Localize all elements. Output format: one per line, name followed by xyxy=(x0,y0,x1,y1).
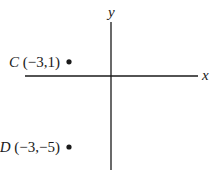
point-c-label: C (−3,1) xyxy=(9,54,60,71)
x-axis-label: x xyxy=(201,67,209,83)
point-c-dot xyxy=(66,59,71,64)
point-name: D xyxy=(0,139,14,155)
point-coordinates: (−3,−5) xyxy=(14,139,60,156)
point-d-dot xyxy=(66,144,71,149)
points-layer: C (−3,1)D (−3,−5) xyxy=(0,54,72,156)
point-d: D (−3,−5) xyxy=(0,139,72,156)
coordinate-plane-svg: x y C (−3,1)D (−3,−5) xyxy=(0,0,217,178)
y-axis-label: y xyxy=(106,4,115,20)
coordinate-plane: x y C (−3,1)D (−3,−5) xyxy=(0,0,217,178)
point-name: C xyxy=(9,54,23,70)
point-coordinates: (−3,1) xyxy=(23,54,60,71)
point-d-label: D (−3,−5) xyxy=(0,139,60,156)
point-c: C (−3,1) xyxy=(9,54,72,71)
